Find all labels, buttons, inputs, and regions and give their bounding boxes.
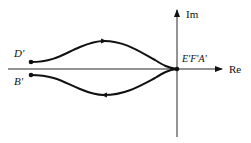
upper-direction-arrow-icon [101, 39, 107, 44]
upper-locus-curve [31, 41, 177, 69]
point-b-prime [29, 73, 34, 78]
point-origin [175, 67, 180, 72]
imag-axis-label: Im [186, 8, 199, 20]
b-prime-label: B' [14, 75, 24, 87]
complex-plane-diagram: Im Re E'F'A' D' B' [0, 0, 251, 143]
real-axis-label: Re [229, 63, 241, 75]
origin-label: E'F'A' [181, 53, 208, 64]
d-prime-label: D' [13, 47, 25, 59]
point-d-prime [29, 60, 34, 65]
lower-direction-arrow-icon [101, 93, 107, 98]
lower-locus-curve [31, 69, 177, 95]
